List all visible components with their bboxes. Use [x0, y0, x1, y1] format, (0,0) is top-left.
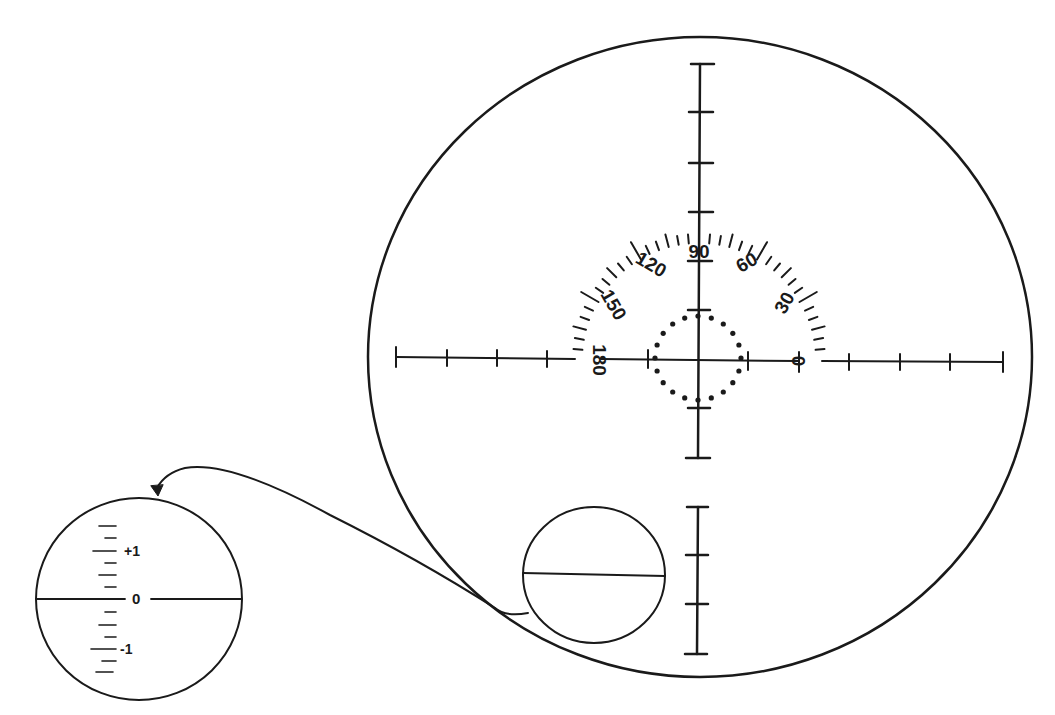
protractor-tick	[812, 326, 825, 329]
aiming-dot	[670, 389, 675, 394]
protractor-tick	[618, 264, 624, 271]
protractor-tick	[757, 242, 767, 259]
protractor-tick	[774, 264, 780, 271]
angle-label-90: 90	[688, 241, 709, 262]
protractor-tick	[809, 317, 818, 320]
protractor-tick	[782, 268, 791, 277]
protractor-tick	[574, 349, 583, 350]
protractor-tick	[607, 268, 616, 277]
protractor-tick	[729, 234, 732, 247]
protractor-tick	[766, 257, 771, 264]
aiming-dot	[730, 331, 735, 336]
aiming-dot	[738, 355, 743, 360]
protractor-tick	[573, 326, 586, 329]
angle-label-180: 180	[589, 344, 610, 376]
aiming-dot	[655, 368, 660, 373]
protractor-tick	[627, 257, 632, 264]
protractor-tick	[739, 242, 742, 251]
protractor-tick	[814, 338, 823, 340]
protractor-tick	[800, 292, 817, 302]
lower-vertical-scale	[685, 507, 708, 654]
protractor-tick	[665, 234, 668, 247]
level-bubble-line	[523, 573, 665, 576]
inset-label-plus-one: +1	[124, 543, 140, 559]
aiming-dot	[709, 395, 714, 400]
protractor-tick	[575, 338, 584, 340]
aiming-dot	[736, 342, 741, 347]
protractor-tick	[805, 307, 813, 311]
aiming-dot	[682, 316, 687, 321]
arrowhead-icon	[151, 485, 163, 496]
aiming-dot	[661, 380, 666, 385]
angle-label-0: 0	[788, 356, 809, 367]
connector-arrow-line	[157, 467, 528, 614]
protractor-tick	[656, 242, 659, 251]
aiming-dot	[655, 342, 660, 347]
aiming-dot	[652, 355, 657, 360]
protractor-tick	[585, 307, 593, 311]
protractor-tick	[795, 288, 802, 293]
aiming-dot	[709, 316, 714, 321]
diagram-canvas: 0 30 60 90 120 150 180 +1 0 -1	[0, 0, 1055, 715]
angle-label-60: 60	[732, 248, 761, 277]
protractor-tick	[789, 279, 796, 285]
inset-label-minus-one: -1	[120, 641, 133, 657]
protractor-tick	[603, 279, 610, 285]
aiming-dot	[661, 331, 666, 336]
aiming-dot	[695, 313, 700, 318]
aiming-dot	[730, 380, 735, 385]
aiming-dot	[721, 389, 726, 394]
aiming-dot	[695, 397, 700, 402]
aiming-dot	[736, 368, 741, 373]
protractor-tick	[719, 236, 721, 245]
aiming-dot	[670, 321, 675, 326]
protractor-tick	[581, 317, 590, 320]
protractor-tick	[816, 349, 825, 350]
inset-label-zero: 0	[132, 590, 140, 607]
protractor-tick	[581, 292, 598, 302]
aiming-dot	[721, 321, 726, 326]
aiming-dot	[682, 395, 687, 400]
protractor-tick	[677, 236, 679, 245]
